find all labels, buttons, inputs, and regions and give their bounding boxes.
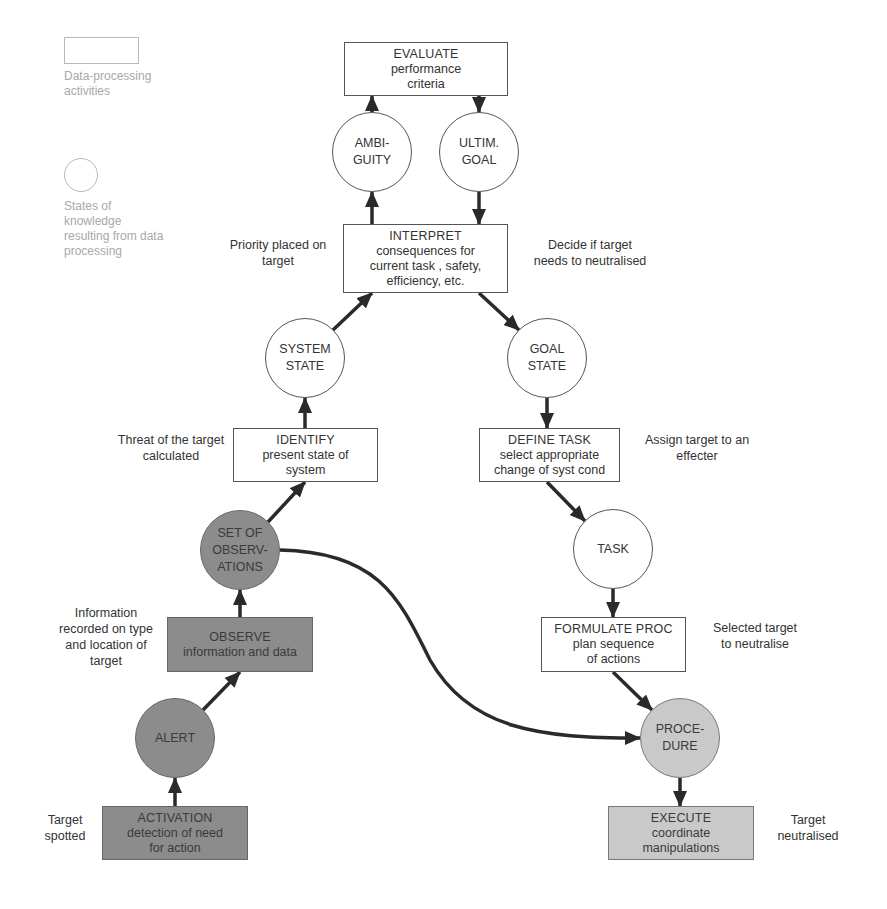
evaluate-title: EVALUATE: [393, 47, 458, 62]
activation-box: ACTIVATION detection of need for action: [102, 806, 248, 860]
execute-line1: coordinate: [652, 826, 710, 841]
evaluate-line2: criteria: [407, 77, 445, 92]
observe-title: OBSERVE: [209, 630, 271, 645]
legend-circle-label: States of knowledge resulting from data …: [64, 199, 163, 259]
arrow-interpret-to-goal-state: [479, 293, 519, 330]
legend-box-label: Data-processing activities: [64, 69, 151, 99]
system-state-line1: SYSTEM: [279, 341, 330, 358]
procedure-line1: PROCE-: [656, 721, 705, 738]
activation-line2: for action: [149, 841, 200, 856]
ambiguity-line1: AMBI-: [355, 135, 390, 152]
arrow-system-state-to-interpret: [333, 293, 372, 330]
formulate-proc-line2: of actions: [587, 652, 641, 667]
ultim-goal-circle: ULTIM. GOAL: [439, 112, 519, 192]
system-state-circle: SYSTEM STATE: [265, 318, 345, 398]
system-state-line2: STATE: [286, 358, 324, 375]
activation-title: ACTIVATION: [137, 811, 212, 826]
annotation-decide: Decide if target needs to neutralised: [520, 237, 660, 269]
ambiguity-line2: GUITY: [353, 152, 391, 169]
interpret-title: INTERPRET: [389, 229, 462, 244]
goal-state-line2: STATE: [528, 358, 566, 375]
task-line1: TASK: [597, 541, 629, 558]
ambiguity-circle: AMBI- GUITY: [332, 112, 412, 192]
interpret-box: INTERPRET consequences for current task …: [343, 224, 508, 293]
arrow-alert-to-observe: [203, 672, 240, 710]
procedure-circle: PROCE- DURE: [640, 698, 720, 778]
ultim-goal-line1: ULTIM.: [459, 135, 499, 152]
observe-line1: information and data: [183, 645, 297, 660]
annotation-priority: Priority placed on target: [218, 237, 338, 269]
annotation-spotted: Target spotted: [40, 812, 90, 844]
define-task-line1: select appropriate: [500, 448, 599, 463]
identify-line1: present state of: [262, 448, 348, 463]
define-task-title: DEFINE TASK: [508, 433, 591, 448]
observations-line2: OBSERV-: [212, 542, 267, 559]
interpret-line3: efficiency, etc.: [386, 274, 464, 289]
identify-line2: system: [286, 463, 326, 478]
annotation-assign: Assign target to an effecter: [632, 432, 762, 464]
formulate-proc-box: FORMULATE PROC plan sequence of actions: [541, 617, 686, 672]
annotation-information: Information recorded on type and locatio…: [50, 605, 162, 669]
execute-box: EXECUTE coordinate manipulations: [608, 806, 754, 860]
observations-line1: SET OF: [218, 525, 263, 542]
goal-state-circle: GOAL STATE: [507, 318, 587, 398]
evaluate-box: EVALUATE performance criteria: [344, 42, 508, 96]
identify-title: IDENTIFY: [276, 433, 335, 448]
define-task-line2: change of syst cond: [494, 463, 605, 478]
define-task-box: DEFINE TASK select appropriate change of…: [479, 428, 620, 482]
legend-box-swatch: [64, 37, 139, 64]
arrow-define-task-to-task: [547, 482, 585, 521]
execute-line2: manipulations: [642, 841, 719, 856]
formulate-proc-line1: plan sequence: [573, 637, 654, 652]
arrow-formulate-to-procedure: [613, 672, 652, 710]
set-of-observations-circle: SET OF OBSERV- ATIONS: [200, 510, 280, 590]
annotation-neutralised: Target neutralised: [768, 812, 848, 844]
observe-box: OBSERVE information and data: [167, 617, 313, 672]
observations-line3: ATIONS: [217, 559, 263, 576]
task-circle: TASK: [573, 509, 653, 589]
arrow-observations-to-identify: [268, 482, 305, 522]
procedure-line2: DURE: [662, 738, 697, 755]
alert-circle: ALERT: [135, 698, 215, 778]
goal-state-line1: GOAL: [530, 341, 565, 358]
activation-line1: detection of need: [127, 826, 223, 841]
interpret-line2: current task , safety,: [370, 259, 482, 274]
identify-box: IDENTIFY present state of system: [233, 428, 378, 482]
ultim-goal-line2: GOAL: [462, 152, 497, 169]
annotation-selected: Selected target to neutralise: [700, 620, 810, 652]
execute-title: EXECUTE: [651, 811, 711, 826]
evaluate-line1: performance: [391, 62, 461, 77]
alert-line1: ALERT: [155, 730, 195, 747]
formulate-proc-title: FORMULATE PROC: [554, 622, 673, 637]
annotation-threat: Threat of the target calculated: [108, 432, 234, 464]
legend-circle-swatch: [64, 158, 98, 192]
interpret-line1: consequences for: [376, 244, 475, 259]
